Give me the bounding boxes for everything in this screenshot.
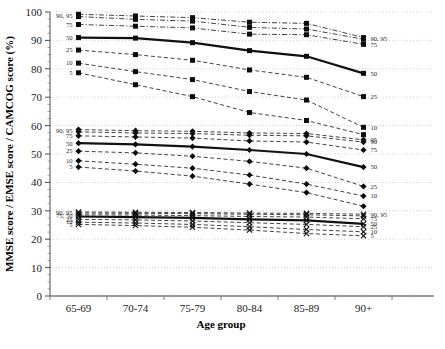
x-axis-title: Age group <box>197 318 246 330</box>
data-point-diamond <box>303 139 309 145</box>
data-point-square <box>133 24 138 29</box>
data-point-square <box>133 52 138 57</box>
data-point-square <box>76 48 81 53</box>
data-point-diamond <box>246 138 252 144</box>
series-group-1: 90, 95755025105959075502510 <box>56 126 378 209</box>
percentile-label-left: 75 <box>66 132 73 139</box>
data-point-square <box>247 110 252 115</box>
data-point-diamond <box>246 158 252 164</box>
data-point-square <box>76 35 81 40</box>
data-point-square <box>190 40 195 45</box>
series-line-p5 <box>79 167 364 206</box>
data-point-diamond <box>360 183 366 189</box>
series-line-p90 <box>79 17 364 40</box>
series-line-p75 <box>79 24 364 44</box>
data-point-square <box>304 27 309 32</box>
series-line-p10 <box>79 222 364 232</box>
data-point-square <box>190 25 195 30</box>
data-point-square <box>304 21 309 26</box>
data-point-diamond <box>75 148 81 154</box>
percentile-label-left: 90, 95 <box>56 12 73 19</box>
data-point-square <box>76 22 81 27</box>
percentile-label-right: 90 <box>371 138 378 145</box>
series-line-p25 <box>79 50 364 97</box>
x-tick-label: 70-74 <box>123 302 149 314</box>
data-point-diamond <box>303 181 309 187</box>
data-point-diamond <box>360 164 366 170</box>
series-line-p5 <box>79 224 364 235</box>
data-point-square <box>304 54 309 59</box>
data-point-square <box>190 58 195 63</box>
percentile-label-left: 75 <box>66 21 73 28</box>
data-point-cross <box>361 233 366 238</box>
y-tick-label: 20 <box>31 233 43 245</box>
y-tick-label: 30 <box>31 205 43 217</box>
y-tick-label: 40 <box>31 176 43 188</box>
series-line-p50 <box>79 38 364 74</box>
data-point-diamond <box>132 150 138 156</box>
y-tick-label: 90 <box>31 34 43 46</box>
chart-container: 010203040506070809010065-6970-7475-7980-… <box>0 0 445 349</box>
data-point-diamond <box>246 172 252 178</box>
data-point-diamond <box>132 141 138 147</box>
data-point-square <box>361 42 366 47</box>
percentile-label-right: 25 <box>371 93 378 100</box>
data-point-square <box>247 32 252 37</box>
percentile-label-left: 5 <box>69 69 73 76</box>
series-line-p10 <box>79 161 364 196</box>
data-point-square <box>76 61 81 66</box>
x-tick-label: 85-89 <box>294 302 320 314</box>
data-point-diamond <box>360 203 366 209</box>
data-point-square <box>247 20 252 25</box>
percentile-label-right: 75 <box>371 41 378 48</box>
percentile-label-left: 25 <box>66 147 73 154</box>
data-point-diamond <box>189 165 195 171</box>
percentile-label-left: 50 <box>66 140 73 147</box>
data-point-diamond <box>132 134 138 140</box>
data-point-diamond <box>246 181 252 187</box>
data-point-diamond <box>246 147 252 153</box>
data-point-square <box>133 36 138 41</box>
data-point-cross <box>361 224 366 229</box>
data-point-diamond <box>132 168 138 174</box>
data-point-diamond <box>303 165 309 171</box>
data-point-diamond <box>75 133 81 139</box>
data-point-diamond <box>303 190 309 196</box>
y-tick-label: 80 <box>31 63 43 75</box>
x-tick-label: 80-84 <box>237 302 263 314</box>
data-point-diamond <box>189 144 195 150</box>
data-point-square <box>190 94 195 99</box>
data-point-square <box>361 71 366 76</box>
data-point-square <box>247 67 252 72</box>
percentile-label-right: 50 <box>371 70 378 77</box>
percentile-label-left: 50 <box>66 34 73 41</box>
percentile-label-right: 25 <box>371 183 378 190</box>
data-point-square <box>133 82 138 87</box>
series-line-p90 <box>79 213 364 216</box>
percentile-label-left: 5 <box>69 221 73 228</box>
data-point-square <box>361 125 366 130</box>
data-point-cross <box>361 216 366 221</box>
x-tick-label: 75-79 <box>180 302 206 314</box>
x-tick-label: 90+ <box>355 302 372 314</box>
data-point-diamond <box>75 164 81 170</box>
y-tick-label: 10 <box>31 262 43 274</box>
y-tick-label: 50 <box>31 148 43 160</box>
y-tick-label: 100 <box>26 6 43 18</box>
percentile-label-left: 5 <box>69 163 73 170</box>
data-point-square <box>133 69 138 74</box>
series-line-p10 <box>79 63 364 127</box>
percentile-label-right: 50 <box>371 163 378 170</box>
data-point-diamond <box>360 193 366 199</box>
data-point-diamond <box>360 147 366 153</box>
percentile-label-left: 25 <box>66 46 73 53</box>
data-point-square <box>304 118 309 123</box>
data-point-diamond <box>132 161 138 167</box>
x-tick-label: 65-69 <box>66 302 92 314</box>
data-point-square <box>361 37 366 42</box>
series-group-0: 90, 9575502510590, 9575502510 <box>56 12 388 137</box>
data-point-square <box>247 48 252 53</box>
data-point-square <box>304 32 309 37</box>
data-point-square <box>361 94 366 99</box>
data-point-square <box>76 14 81 19</box>
